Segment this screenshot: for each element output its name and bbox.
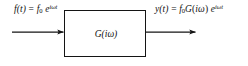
system-block-label: G(iω) (65, 30, 147, 40)
output-exponential-exponent: iωt (215, 3, 223, 10)
block-diagram: f(t)=f0eiωt y(t)=f0G(iω)eiωt G(iω) (0, 0, 248, 66)
block-label-argument: iω (105, 29, 114, 39)
block-label-function: G (95, 29, 102, 39)
input-signal-label: f(t)=f0eiωt (14, 5, 57, 15)
input-amplitude-subscript: 0 (39, 7, 42, 14)
output-equals: = (171, 4, 176, 14)
input-lhs: f(t) (14, 4, 26, 14)
input-exponential-exponent: iωt (49, 3, 57, 10)
output-signal-label: y(t)=f0G(iω)eiωt (155, 5, 223, 15)
system-block: G(iω) (64, 10, 146, 57)
output-transfer-argument: iω (195, 4, 205, 14)
input-equals: = (29, 4, 34, 14)
output-lhs: y(t) (155, 4, 169, 14)
